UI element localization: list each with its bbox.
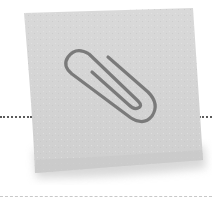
dashed-divider-bottom [0, 196, 212, 197]
sticky-note-icon [0, 0, 212, 199]
illustration-stage [0, 0, 212, 199]
